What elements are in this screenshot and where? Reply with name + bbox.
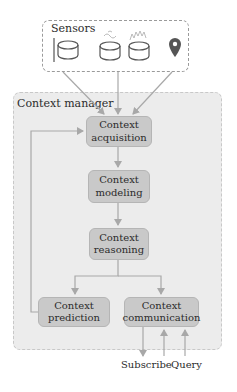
context-acquisition-node: Context acquisition: [86, 116, 152, 147]
node-label-line1: Context: [99, 232, 139, 245]
node-label-line1: Context: [99, 174, 139, 187]
node-label-line2: modeling: [95, 187, 142, 200]
microphone-sensor-icon: [54, 38, 78, 62]
node-label-line2: reasoning: [94, 244, 144, 257]
context-communication-node: Context communication: [124, 297, 199, 327]
context-reasoning-node: Context reasoning: [89, 228, 149, 260]
context-modeling-node: Context modeling: [88, 170, 150, 203]
query-label: Query: [171, 359, 202, 370]
subscribe-label: Subscribe: [121, 359, 172, 370]
location-pin-icon: [169, 38, 181, 57]
heat-sensor-icon: [129, 31, 149, 60]
node-label-line2: communication: [123, 312, 201, 325]
context-prediction-node: Context prediction: [38, 297, 110, 327]
node-label-line1: Context: [54, 300, 94, 313]
node-label-line1: Context: [142, 300, 182, 313]
node-label-line2: acquisition: [91, 132, 147, 145]
node-label-line2: prediction: [48, 312, 100, 325]
node-label-line1: Context: [99, 119, 139, 132]
signal-sensor-icon: [100, 31, 120, 60]
